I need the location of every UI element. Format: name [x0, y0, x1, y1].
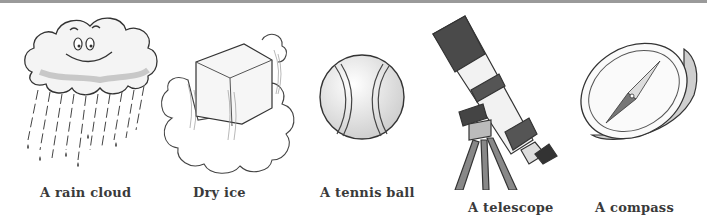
telescope-illustration	[425, 4, 570, 190]
tennis-ball-label: A tennis ball	[320, 185, 415, 200]
compass-label: A compass	[595, 200, 674, 215]
telescope-label: A telescope	[468, 200, 554, 215]
rain-cloud-illustration	[20, 10, 170, 180]
dry-ice-label: Dry ice	[193, 185, 246, 200]
tennis-ball-illustration	[315, 50, 410, 145]
telescope-icon	[425, 4, 570, 190]
rain-cloud-icon	[20, 10, 170, 180]
compass-illustration	[572, 35, 702, 145]
dry-ice-illustration	[158, 20, 303, 180]
dry-ice-icon	[158, 20, 303, 180]
compass-icon	[572, 35, 702, 145]
rain-cloud-label: A rain cloud	[40, 185, 131, 200]
top-rule	[0, 0, 707, 3]
tennis-ball-icon	[315, 50, 410, 145]
